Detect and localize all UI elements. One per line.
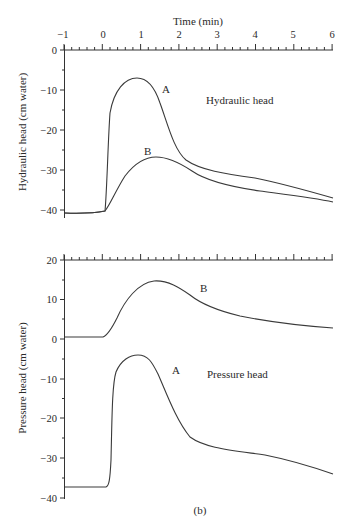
x-tick-label: 4 (252, 29, 258, 40)
lower-panel-title: Pressure head (207, 368, 268, 380)
hydraulic-curve-a (65, 78, 333, 213)
upper-y-axis-ticks (60, 50, 65, 210)
lower-top-axis-ticks (64, 254, 332, 260)
hydraulic-head-panel: 0 −10 −20 −30 −40 Hydraulic head (cm wat… (16, 44, 333, 218)
upper-top-axis-ticks (64, 44, 332, 50)
x-tick-labels: −1 0 1 2 3 4 5 6 (57, 29, 334, 40)
x-axis-title: Time (min) (173, 15, 223, 28)
y-tick-label: 0 (52, 334, 57, 345)
lower-label-b: B (200, 282, 207, 294)
y-tick-label: −40 (41, 205, 57, 216)
y-tick-label: −20 (41, 125, 57, 136)
x-tick-label: 0 (100, 29, 105, 40)
upper-y-axis-title: Hydraulic head (cm water) (16, 73, 29, 192)
figure-label: (b) (194, 504, 207, 517)
upper-label-b: B (144, 145, 151, 157)
x-tick-label: 3 (214, 29, 219, 40)
y-tick-label: 0 (52, 45, 57, 56)
x-tick-label: 1 (138, 29, 143, 40)
y-tick-label: −10 (41, 85, 57, 96)
lower-y-axis-title: Pressure head (cm water) (16, 322, 29, 434)
x-tick-label: 2 (176, 29, 181, 40)
x-tick-label: 5 (290, 29, 295, 40)
pressure-head-panel: 20 10 0 −10 −20 −30 −40 Pressure head (c… (16, 254, 333, 504)
lower-y-axis-ticks (60, 260, 65, 498)
figure: Time (min) −1 0 1 2 3 4 5 6 0 −10 −20 −3… (0, 0, 361, 528)
y-tick-label: −30 (41, 453, 57, 464)
y-tick-label: 20 (47, 255, 58, 266)
x-tick-label: −1 (57, 29, 68, 40)
x-tick-label: 6 (329, 29, 334, 40)
upper-label-a: A (162, 83, 170, 95)
y-tick-label: −40 (41, 493, 57, 504)
lower-label-a: A (172, 364, 180, 376)
pressure-curve-b (65, 281, 333, 337)
y-tick-label: −30 (41, 165, 57, 176)
y-tick-label: 10 (47, 294, 58, 305)
pressure-curve-a (65, 355, 333, 487)
upper-panel-title: Hydraulic head (206, 94, 274, 106)
y-tick-label: −20 (41, 413, 57, 424)
y-tick-label: −10 (41, 374, 57, 385)
